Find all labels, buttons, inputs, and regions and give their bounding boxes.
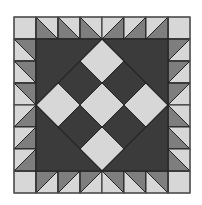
border-right-cell [168,105,190,127]
corner-square-top-left [14,17,36,39]
border-right-cell [168,83,190,105]
border-bottom-cell [36,171,58,193]
corner-square-top-right [168,17,190,39]
border-left-cell [14,83,36,105]
border-bottom-cell [124,171,146,193]
border-top-cell [124,17,146,39]
border-top-cell [102,17,124,39]
border-right-cell [168,149,190,171]
border-left-cell [14,127,36,149]
border-top-cell [80,17,102,39]
border-left-cell [14,149,36,171]
border-left-cell [14,105,36,127]
corner-square-bottom-right [168,171,190,193]
border-left-cell [14,61,36,83]
border-right-cell [168,39,190,61]
border-left-cell [14,39,36,61]
center-checkerboard [36,39,168,171]
corner-square-bottom-left [14,171,36,193]
border-top-cell [58,17,80,39]
border-bottom-cell [80,171,102,193]
border-right-cell [168,127,190,149]
border-top-cell [36,17,58,39]
quilt-block [0,0,202,205]
border-top-cell [146,17,168,39]
border-bottom-cell [58,171,80,193]
border-right-cell [168,61,190,83]
border-bottom-cell [146,171,168,193]
border-bottom-cell [102,171,124,193]
